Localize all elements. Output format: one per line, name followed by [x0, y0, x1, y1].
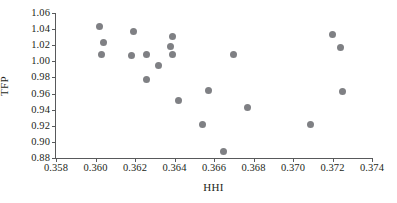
scatter-point: [329, 31, 336, 38]
y-tick-label: 0.98: [31, 72, 50, 83]
scatter-point: [205, 87, 212, 94]
y-axis-title: TFP: [0, 76, 10, 96]
y-tick-label: 1.00: [31, 56, 50, 67]
scatter-point: [98, 51, 105, 58]
y-tick-label: 1.04: [31, 24, 50, 35]
x-tick-label: 0.368: [241, 163, 265, 174]
scatter-chart-figure: 0.880.900.920.940.960.981.001.021.041.06…: [0, 0, 397, 203]
x-tick-label: 0.374: [360, 163, 384, 174]
data-points-layer: [56, 13, 372, 158]
x-axis-title: HHI: [55, 182, 372, 193]
scatter-point: [199, 121, 206, 128]
x-tick-label: 0.366: [202, 163, 226, 174]
scatter-point: [220, 148, 227, 155]
scatter-point: [169, 51, 176, 58]
y-tick-label: 0.92: [31, 121, 50, 132]
x-tick-label: 0.362: [123, 163, 147, 174]
scatter-point: [100, 39, 107, 46]
scatter-point: [169, 33, 176, 40]
scatter-point: [130, 28, 137, 35]
scatter-point: [339, 88, 346, 95]
x-tick-label: 0.370: [281, 163, 305, 174]
y-tick-label: 1.06: [31, 8, 50, 19]
scatter-point: [307, 121, 314, 128]
x-tick-label: 0.364: [162, 163, 186, 174]
y-tick-label: 1.02: [31, 40, 50, 51]
scatter-point: [96, 23, 103, 30]
scatter-point: [155, 62, 162, 69]
y-tick-label: 0.94: [31, 104, 50, 115]
plot-area: 0.880.900.920.940.960.981.001.021.041.06…: [55, 13, 372, 159]
scatter-point: [143, 76, 150, 83]
x-tick-label: 0.358: [44, 163, 68, 174]
scatter-point: [143, 51, 150, 58]
y-tick-label: 0.96: [31, 88, 50, 99]
scatter-point: [175, 97, 182, 104]
scatter-point: [337, 44, 344, 51]
scatter-point: [244, 104, 251, 111]
x-tick-label: 0.372: [320, 163, 344, 174]
x-tick-label: 0.360: [83, 163, 107, 174]
y-tick-label: 0.90: [31, 137, 50, 148]
scatter-point: [128, 52, 135, 59]
scatter-point: [230, 51, 237, 58]
scatter-point: [167, 43, 174, 50]
